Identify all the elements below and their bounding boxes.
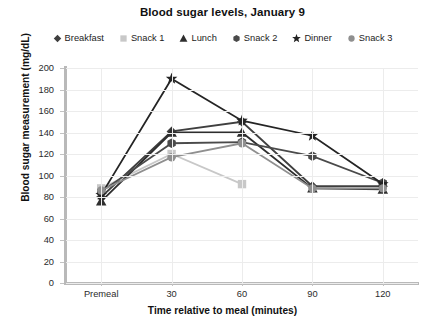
legend-item-snack-2[interactable]: Snack 2 bbox=[232, 33, 278, 43]
legend-label: Breakfast bbox=[65, 33, 104, 43]
legend-label: Snack 2 bbox=[244, 33, 278, 43]
legend-label: Dinner bbox=[304, 33, 331, 43]
grid-line bbox=[66, 283, 418, 284]
legend-label: Snack 1 bbox=[131, 33, 165, 43]
chart-title: Blood sugar levels, January 9 bbox=[0, 6, 445, 18]
star-marker-icon bbox=[292, 34, 301, 43]
circle-marker-icon bbox=[347, 34, 356, 43]
y-axis-title: Blood sugar measurement (mg/dL) bbox=[20, 3, 31, 233]
legend-item-lunch[interactable]: Lunch bbox=[179, 33, 216, 43]
blood-sugar-chart: Blood sugar levels, January 9 BreakfastS… bbox=[0, 0, 445, 328]
x-axis-tick-label: Premeal bbox=[66, 289, 136, 299]
diamond-marker-icon bbox=[53, 34, 62, 43]
plot-area bbox=[66, 68, 418, 283]
legend-label: Snack 3 bbox=[359, 33, 393, 43]
legend-item-snack-3[interactable]: Snack 3 bbox=[347, 33, 393, 43]
grid-line-vertical bbox=[242, 68, 243, 283]
legend-item-breakfast[interactable]: Breakfast bbox=[53, 33, 104, 43]
chart-legend: BreakfastSnack 1LunchSnack 2DinnerSnack … bbox=[0, 33, 445, 43]
grid-line-vertical bbox=[383, 68, 384, 283]
grid-line-vertical bbox=[101, 68, 102, 283]
y-axis-tick-label: 0 bbox=[26, 278, 54, 288]
x-axis-tick-label: 30 bbox=[137, 289, 207, 299]
grid-line-vertical bbox=[172, 68, 173, 283]
x-axis-title: Time relative to meal (minutes) bbox=[0, 305, 445, 316]
x-axis-tick-label: 120 bbox=[348, 289, 418, 299]
legend-item-snack-1[interactable]: Snack 1 bbox=[119, 33, 165, 43]
x-axis-tick-label: 90 bbox=[277, 289, 347, 299]
legend-item-dinner[interactable]: Dinner bbox=[292, 33, 331, 43]
hexagon-marker-icon bbox=[232, 34, 241, 43]
triangle-marker-icon bbox=[179, 34, 188, 43]
grid-line-vertical bbox=[312, 68, 313, 283]
y-axis-tick-label: 20 bbox=[26, 257, 54, 267]
y-axis-tick-label: 40 bbox=[26, 235, 54, 245]
square-marker-icon bbox=[119, 34, 128, 43]
x-axis-tick-label: 60 bbox=[207, 289, 277, 299]
legend-label: Lunch bbox=[191, 33, 216, 43]
